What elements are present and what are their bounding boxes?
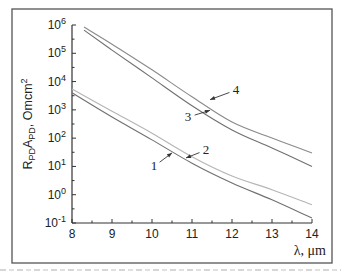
y-tick-label: 102 — [48, 129, 66, 145]
chart-canvas: 89101112131410610510410310210110010-1 12… — [0, 0, 341, 274]
y-tick-label: 104 — [48, 73, 66, 89]
x-axis-label: λ, μm — [294, 243, 326, 258]
series-layer — [72, 27, 312, 218]
x-tick-label: 9 — [109, 227, 116, 241]
arrowhead-icon — [167, 153, 172, 158]
x-tick-label: 11 — [186, 227, 199, 241]
y-tick-label: 105 — [48, 44, 66, 60]
series-line-3 — [84, 30, 312, 166]
series-line-4 — [84, 27, 312, 153]
svg-text:RPDAPD, Omcm2: RPDAPD, Omcm2 — [19, 78, 37, 169]
x-tick-label: 13 — [265, 227, 279, 241]
cropped-caption — [0, 266, 341, 274]
curve-label-4: 4 — [233, 82, 240, 97]
annotation-layer: 1234 — [151, 82, 240, 173]
y-tick-label: 101 — [48, 157, 66, 173]
x-tick-label: 14 — [305, 227, 319, 241]
chart: 89101112131410610510410310210110010-1 12… — [0, 0, 341, 274]
x-tick-label: 12 — [225, 227, 239, 241]
curve-label-2: 2 — [203, 142, 210, 157]
curve-label-1: 1 — [151, 158, 158, 173]
y-tick-label: 103 — [48, 101, 66, 117]
x-tick-label: 10 — [145, 227, 159, 241]
arrowhead-icon — [205, 110, 210, 114]
arrowhead-icon — [210, 96, 215, 100]
x-tick-label: 8 — [69, 227, 76, 241]
y-axis-label: RPDAPD, Omcm2 — [19, 78, 37, 169]
curve-label-3: 3 — [185, 109, 192, 124]
y-tick-label: 10-1 — [45, 214, 66, 230]
y-tick-label: 100 — [48, 186, 66, 202]
axes: 89101112131410610510410310210110010-1 — [45, 16, 319, 241]
y-tick-label: 106 — [48, 16, 66, 32]
